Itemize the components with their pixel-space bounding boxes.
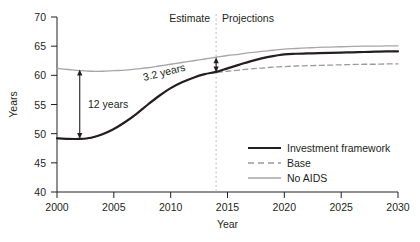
x-axis-title: Year — [217, 218, 239, 230]
y-tick-label-45: 45 — [34, 157, 46, 169]
y-tick-label-40: 40 — [34, 186, 46, 198]
x-tick-label-2020: 2020 — [273, 201, 297, 213]
x-tick-label-2025: 2025 — [330, 201, 354, 213]
y-tick-label-70: 70 — [34, 11, 46, 23]
y-tick-label-60: 60 — [34, 69, 46, 81]
y-axis-title: Years — [7, 91, 19, 117]
y-tick-label-55: 55 — [34, 99, 46, 111]
legend-label-investment-framework: Investment framework — [287, 142, 391, 154]
estimate-label: Estimate — [169, 12, 210, 24]
legend-label-base: Base — [287, 157, 311, 169]
x-tick-label-2005: 2005 — [102, 201, 126, 213]
life-expectancy-chart: 70 65 60 55 50 45 40 2000 2005 2010 2015… — [0, 0, 420, 242]
x-tick-label-2010: 2010 — [159, 201, 183, 213]
x-tick-label-2000: 2000 — [45, 201, 69, 213]
chart-svg: 70 65 60 55 50 45 40 2000 2005 2010 2015… — [0, 0, 420, 242]
y-tick-label-65: 65 — [34, 40, 46, 52]
x-tick-label-2015: 2015 — [216, 201, 240, 213]
x-tick-label-2030: 2030 — [386, 201, 410, 213]
annotation-12-years-label: 12 years — [88, 98, 128, 110]
y-tick-label-50: 50 — [34, 128, 46, 140]
projections-label: Projections — [222, 12, 274, 24]
legend-label-no-aids: No AIDS — [287, 172, 327, 184]
